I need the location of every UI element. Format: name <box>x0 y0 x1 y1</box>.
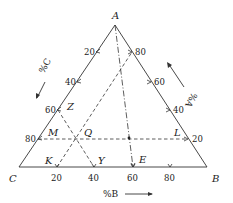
point-m-label: M <box>47 127 59 138</box>
axis-arrow-a-icon <box>167 62 184 87</box>
vertex-b-label: B <box>211 173 219 184</box>
left-tick-80: 80 <box>25 134 36 144</box>
point-y-label: Y <box>98 155 106 166</box>
left-tick-20: 20 <box>84 47 95 57</box>
right-tick-20: 20 <box>192 134 203 144</box>
point-z-label: Z <box>66 101 75 112</box>
axis-label-a: %A <box>183 91 199 109</box>
edge-ac <box>19 25 115 167</box>
bottom-tick-20: 20 <box>51 173 62 183</box>
left-tick-40: 40 <box>65 77 76 87</box>
e-arrowhead <box>131 163 135 167</box>
line-z-y <box>58 110 94 167</box>
right-tick-60: 60 <box>154 77 165 87</box>
left-tick-60: 60 <box>45 105 56 115</box>
right-tick-40: 40 <box>173 105 184 115</box>
bottom-tick-60: 60 <box>127 173 138 183</box>
axis-label-c: %C <box>37 57 53 75</box>
triangle-edges <box>19 25 207 167</box>
axis-label-b: %B <box>103 189 119 199</box>
intersection-dot <box>128 137 131 140</box>
ternary-diagram: A B C M L Q Z K Y E 20 40 60 80 80 60 40… <box>0 0 233 203</box>
right-tick-80: 80 <box>135 47 146 57</box>
axis-arrow-c-icon <box>36 82 45 99</box>
point-e-label: E <box>138 154 147 165</box>
vertex-c-label: C <box>9 173 17 184</box>
bottom-tick-40: 40 <box>88 173 99 183</box>
axis-arrow-b-icon <box>125 192 153 196</box>
line-a-e <box>115 25 133 167</box>
bottom-tick-80: 80 <box>164 173 175 183</box>
point-l-label: L <box>173 127 181 138</box>
point-q-label: Q <box>84 127 92 138</box>
point-k-label: K <box>44 155 53 166</box>
vertex-a-label: A <box>111 10 119 21</box>
